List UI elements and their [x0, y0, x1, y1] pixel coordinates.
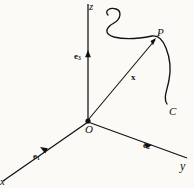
origin-label: O	[85, 124, 93, 135]
e3-arrowhead	[85, 50, 91, 57]
basis-vector-e2-subscript: 2	[147, 144, 150, 150]
curve-c-label: C	[169, 106, 176, 117]
z-axis-label: z	[89, 1, 93, 12]
position-vector-label: x	[131, 73, 136, 82]
basis-vector-e2-label: e2	[143, 141, 150, 150]
x-axis-label: x	[0, 176, 5, 187]
coordinate-system-figure: z y x O P C e1 e2 e3 x	[0, 0, 194, 188]
basis-vector-e3-subscript: 3	[78, 55, 81, 61]
y-axis-label: y	[180, 160, 185, 172]
point-p-label: P	[157, 27, 164, 38]
basis-vector-e3-label: e3	[74, 52, 81, 61]
basis-vector-e1-subscript: 1	[37, 155, 40, 161]
figure-vector-graphics	[0, 0, 194, 188]
curve-C-path	[107, 8, 170, 104]
position-vector-line	[88, 40, 155, 120]
y-axis-line	[88, 122, 187, 158]
basis-vector-e1-label: e1	[33, 152, 40, 161]
